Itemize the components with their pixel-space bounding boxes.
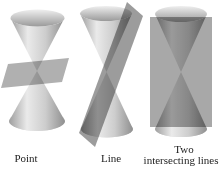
upper-cone-rim <box>11 10 65 27</box>
point-diagram <box>1 10 69 132</box>
two-intersecting-lines-label-line2: intersecting lines <box>144 154 219 166</box>
vertical-cutting-plane <box>150 17 212 127</box>
horizontal-cutting-plane <box>1 58 69 88</box>
two-lines-diagram <box>150 6 212 137</box>
line-label: Line <box>101 152 121 164</box>
conic-sections-figure: Point Line Two intersecting lines <box>0 0 221 170</box>
point-label: Point <box>14 152 37 164</box>
degenerate-conics-svg: Point Line Two intersecting lines <box>0 0 221 170</box>
line-diagram <box>79 2 143 147</box>
